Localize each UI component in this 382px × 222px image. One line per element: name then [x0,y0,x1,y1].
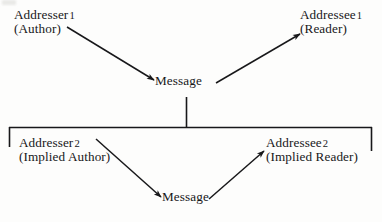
node-addresser-2-subtitle: (Implied Author) [19,150,110,164]
node-message-2-title: Message [162,190,209,204]
node-addressee-2-subtitle: (Implied Reader) [266,150,358,164]
node-addressee-2: Addressee2 (Implied Reader) [266,136,358,165]
node-message-1: Message [155,74,202,88]
node-addressee-2-number: 2 [322,138,329,149]
node-addresser-1-subtitle: (Author) [14,22,75,36]
node-addressee-1: Addressee1 (Reader) [300,8,362,37]
arrow-addresser1-to-message1 [67,27,154,80]
node-addresser-2-number: 2 [73,138,80,149]
node-message-1-title: Message [155,74,202,88]
node-addresser-1-number: 1 [68,10,75,21]
node-addresser-2: Addresser2 (Implied Author) [19,136,110,165]
node-addressee-1-number: 1 [356,10,363,21]
communication-diagram: Addresser1 (Author) Addressee1 (Reader) … [0,0,382,222]
arrow-message1-to-addressee1 [216,34,300,83]
node-addressee-2-title: Addressee2 [266,136,358,150]
arrow-message2-to-addressee2 [209,151,264,199]
node-addresser-2-title: Addresser2 [19,136,110,150]
node-addressee-1-title: Addressee1 [300,8,362,22]
node-addresser-1: Addresser1 (Author) [14,8,75,37]
node-message-2: Message [162,190,209,204]
node-addresser-1-title: Addresser1 [14,8,75,22]
node-addressee-1-subtitle: (Reader) [300,22,362,36]
